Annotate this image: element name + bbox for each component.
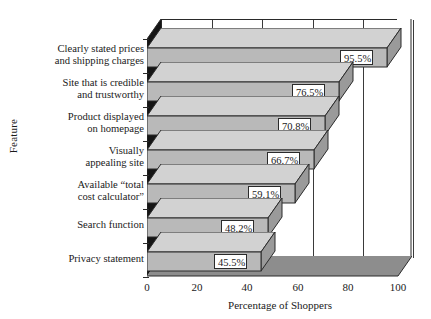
category-label-line: and trustworthy <box>24 89 144 101</box>
category-label-5: Search function <box>24 219 144 231</box>
plot-area: 95.5%76.5%70.8%66.7%59.1%48.2%45.5% <box>147 19 412 276</box>
y-axis-title: Feature <box>7 101 19 171</box>
x-axis-tick-label-80: 80 <box>328 281 368 293</box>
y-axis-tick <box>143 141 149 142</box>
category-label-1: Site that is credibleand trustworthy <box>24 77 144 102</box>
category-label-line: cost calculator” <box>24 191 144 203</box>
category-label-4: Available “totalcost calculator” <box>24 179 144 204</box>
category-label-line: Site that is credible <box>24 77 144 89</box>
bar-6 <box>147 232 277 273</box>
bar-chart: Feature Clearly stated pricesand shippin… <box>0 0 431 319</box>
y-axis-tick <box>143 175 149 176</box>
y-axis-tick <box>143 209 149 210</box>
category-label-line: appealing site <box>24 157 144 169</box>
category-label-group: Clearly stated pricesand shipping charge… <box>24 19 144 267</box>
category-label-line: Privacy statement <box>24 253 144 265</box>
category-label-2: Product displayedon homepage <box>24 111 144 136</box>
bar-value-label-6: 45.5% <box>214 254 247 269</box>
category-label-6: Privacy statement <box>24 253 144 265</box>
x-axis-title: Percentage of Shoppers <box>145 299 415 311</box>
x-axis-tick-label-0: 0 <box>127 281 167 293</box>
y-axis-tick <box>143 243 149 244</box>
category-label-line: Clearly stated prices <box>24 43 144 55</box>
gridline-x-100 <box>413 20 414 258</box>
category-label-3: Visuallyappealing site <box>24 145 144 170</box>
x-axis-tick-label-60: 60 <box>278 281 318 293</box>
x-axis-tick-label-100: 100 <box>378 281 418 293</box>
y-axis-tick <box>143 277 149 278</box>
category-label-0: Clearly stated pricesand shipping charge… <box>24 43 144 68</box>
category-label-line: Available “total <box>24 179 144 191</box>
category-label-line: Product displayed <box>24 111 144 123</box>
y-axis-tick <box>143 73 149 74</box>
category-label-line: and shipping charges <box>24 55 144 67</box>
x-axis-tick-label-40: 40 <box>227 281 267 293</box>
category-label-line: Search function <box>24 219 144 231</box>
category-label-line: Visually <box>24 145 144 157</box>
category-label-line: on homepage <box>24 123 144 135</box>
y-axis-tick <box>143 39 149 40</box>
y-axis-tick <box>143 107 149 108</box>
x-axis-tick-label-20: 20 <box>177 281 217 293</box>
